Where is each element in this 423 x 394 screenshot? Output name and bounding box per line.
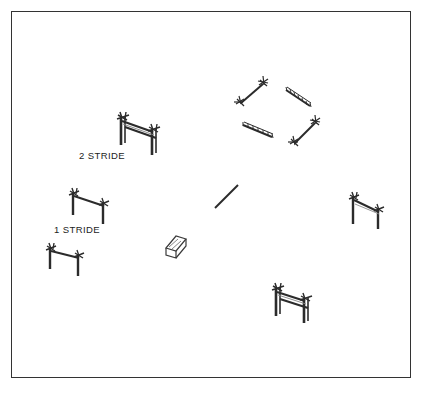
course-diagram: 2 STRIDE 1 STRIDE bbox=[0, 0, 423, 394]
arena-boundary bbox=[11, 11, 411, 378]
label-two-stride: 2 STRIDE bbox=[79, 150, 125, 161]
label-one-stride: 1 STRIDE bbox=[54, 224, 100, 235]
